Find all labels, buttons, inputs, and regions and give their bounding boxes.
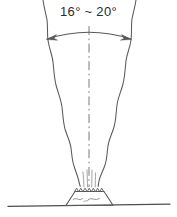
- plume-inner-streak-center-left: [87, 170, 88, 187]
- plume-left-contour: [43, 0, 80, 186]
- welding-plume-diagram: [0, 0, 177, 217]
- weld-bead-ripple-center: [84, 200, 89, 201]
- weld-bead-ripple-left: [73, 199, 83, 200]
- plume-inner-streak-left: [83, 172, 84, 187]
- weld-bead: [66, 192, 113, 206]
- arrow-right: [120, 35, 131, 41]
- plume-right-contour: [98, 0, 136, 186]
- weld-bead-ripple-right: [88, 198, 100, 199]
